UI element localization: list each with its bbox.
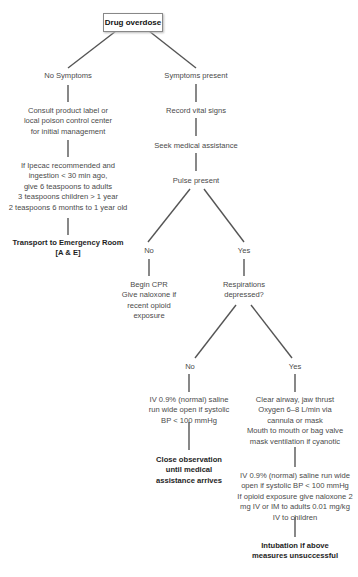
text-line: Begin CPR — [122, 280, 176, 290]
text-line: Clear airway, jaw thrust — [247, 395, 343, 405]
text-line: local poison control center — [24, 116, 112, 126]
text-line: If opioid exposure give naloxone 2 — [237, 492, 352, 502]
text-line: [A & E] — [13, 248, 124, 258]
text-line: assistance arrives — [156, 476, 222, 486]
node-respirations-depressed: Respirations depressed? — [223, 280, 265, 301]
text-line: 3 teaspoons children > 1 year — [9, 192, 128, 202]
node-resp-yes: Yes — [289, 362, 301, 372]
text-line: Give naloxone if — [122, 290, 176, 300]
text-line: IV to children — [237, 513, 352, 523]
node-intubation: Intubation if above measures unsuccessfu… — [252, 541, 338, 562]
text-line: ingestion < 30 min ago, — [9, 171, 128, 181]
root-node-drug-overdose: Drug overdose — [103, 13, 163, 32]
text-line: mask ventilation if cyanotic — [247, 437, 343, 447]
text-line: Mouth to mouth or bag valve — [247, 426, 343, 436]
text-line: If Ipecac recommended and — [9, 161, 128, 171]
node-ipecac-instructions: If Ipecac recommended and ingestion < 30… — [9, 161, 128, 213]
text-line: BP < 100 mmHg — [149, 416, 230, 426]
text-line: give 6 teaspoons to adults — [9, 182, 128, 192]
node-close-observation: Close observation until medical assistan… — [156, 455, 222, 486]
text-line: mg IV or IM to adults 0.01 mg/kg — [237, 502, 352, 512]
text-line: cannula or mask — [247, 416, 343, 426]
text-line: Transport to Emergency Room — [13, 238, 124, 248]
text-line: exposure — [122, 311, 176, 321]
text-line: 2 teaspoons 6 months to 1 year old — [9, 203, 128, 213]
node-symptoms-present: Symptoms present — [164, 71, 227, 81]
text-line: open if systolic BP < 100 mmHg — [237, 481, 352, 491]
node-pulse-present: Pulse present — [173, 176, 219, 186]
text-line: recent opioid — [122, 301, 176, 311]
node-transport-emergency-room: Transport to Emergency Room [A & E] — [13, 238, 124, 259]
text-line: IV 0.9% (normal) saline run wide — [237, 471, 352, 481]
text-line: run wide open if systolic — [149, 405, 230, 415]
text-line: IV 0.9% (normal) saline — [149, 395, 230, 405]
node-clear-airway: Clear airway, jaw thrust Oxygen 6–8 L/mi… — [247, 395, 343, 447]
text-line: for initial management — [24, 127, 112, 137]
text-line: Intubation if above — [252, 541, 338, 551]
text-line: Close observation — [156, 455, 222, 465]
node-begin-cpr: Begin CPR Give naloxone if recent opioid… — [122, 280, 176, 322]
node-seek-medical-assistance: Seek medical assistance — [154, 141, 238, 151]
node-record-vital-signs: Record vital signs — [166, 106, 226, 116]
text-line: Consult product label or — [24, 106, 112, 116]
text-line: until medical — [156, 465, 222, 475]
node-pulse-no: No — [144, 246, 154, 256]
node-resp-no: No — [185, 362, 195, 372]
node-no-symptoms: No Symptoms — [44, 71, 92, 81]
node-iv-saline-naloxone: IV 0.9% (normal) saline run wide open if… — [237, 471, 352, 523]
text-line: Respirations — [223, 280, 265, 290]
text-line: measures unsuccessful — [252, 551, 338, 561]
text-line: depressed? — [223, 290, 265, 300]
node-consult-poison-control: Consult product label or local poison co… — [24, 106, 112, 137]
node-iv-saline-no: IV 0.9% (normal) saline run wide open if… — [149, 395, 230, 426]
node-pulse-yes: Yes — [238, 246, 250, 256]
text-line: Oxygen 6–8 L/min via — [247, 405, 343, 415]
